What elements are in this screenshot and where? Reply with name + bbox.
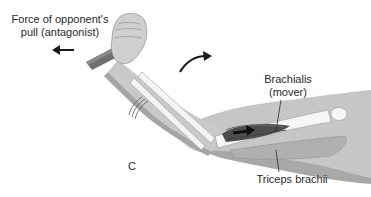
- brachialis-label-line1: Brachialis: [256, 73, 320, 86]
- brachialis-label-line2: (mover): [256, 86, 320, 99]
- force-label: Force of opponent's pull (antagonist): [8, 13, 112, 39]
- panel-letter: C: [125, 160, 139, 173]
- fist: [111, 13, 147, 63]
- force-label-line1: Force of opponent's: [8, 13, 112, 26]
- pull-arrow-icon: [52, 45, 74, 55]
- humerus-head: [331, 108, 347, 121]
- brachialis-label: Brachialis (mover): [256, 73, 320, 99]
- rotation-arrow-icon: [180, 51, 212, 72]
- triceps-label: Triceps brachii: [247, 173, 337, 186]
- anatomy-figure: Force of opponent's pull (antagonist) Br…: [0, 0, 371, 197]
- force-label-line2: pull (antagonist): [8, 26, 112, 39]
